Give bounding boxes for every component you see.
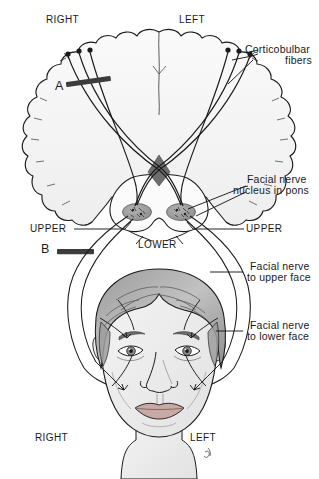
label-left-top: LEFT xyxy=(179,14,205,25)
label-lesion-b: B xyxy=(41,244,50,255)
label-nerve-lower-face-line2: to lower face xyxy=(247,331,309,342)
label-lesion-a: A xyxy=(55,81,64,92)
label-nucleus-pons-line2: nucleus in pons xyxy=(233,185,309,196)
label-left-bottom: LEFT xyxy=(190,432,216,443)
artist-signature xyxy=(204,448,210,457)
figure-canvas: RIGHT LEFT A B UPPER UPPER LOWER Cortico… xyxy=(0,0,319,479)
label-nerve-upper-face-line2: to upper face xyxy=(247,272,311,283)
label-corticobulbar-line2: fibers xyxy=(245,55,312,66)
label-right-bottom: RIGHT xyxy=(35,432,68,443)
lesion-bar-b xyxy=(57,249,94,254)
label-right-top: RIGHT xyxy=(46,14,79,25)
face-illustration xyxy=(93,269,226,479)
label-upper-right: UPPER xyxy=(30,223,66,234)
label-upper-left: UPPER xyxy=(246,223,282,234)
label-lower: LOWER xyxy=(138,239,177,250)
